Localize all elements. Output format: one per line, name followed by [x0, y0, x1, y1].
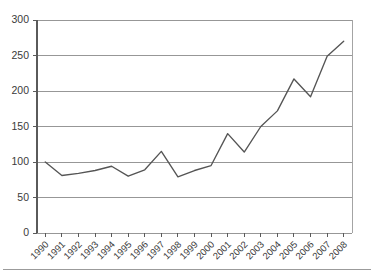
- line-chart: 050100150200250300 199019911992199319941…: [0, 0, 374, 277]
- x-axis-ticks: [45, 233, 343, 237]
- y-tick-label: 150: [11, 120, 29, 132]
- y-tick-label: 250: [11, 49, 29, 61]
- x-axis-tick-labels: 1990199119921993199419951996199719981999…: [28, 239, 349, 262]
- chart-figure: 050100150200250300 199019911992199319941…: [0, 0, 374, 277]
- y-tick-label: 200: [11, 84, 29, 96]
- y-tick-label: 100: [11, 155, 29, 167]
- y-axis-ticks: [33, 20, 37, 233]
- y-tick-label: 300: [11, 13, 29, 25]
- y-tick-label: 50: [17, 191, 29, 203]
- y-tick-label: 0: [23, 226, 29, 238]
- y-axis-tick-labels: 050100150200250300: [11, 13, 29, 238]
- x-tick-label: 2008: [326, 239, 349, 262]
